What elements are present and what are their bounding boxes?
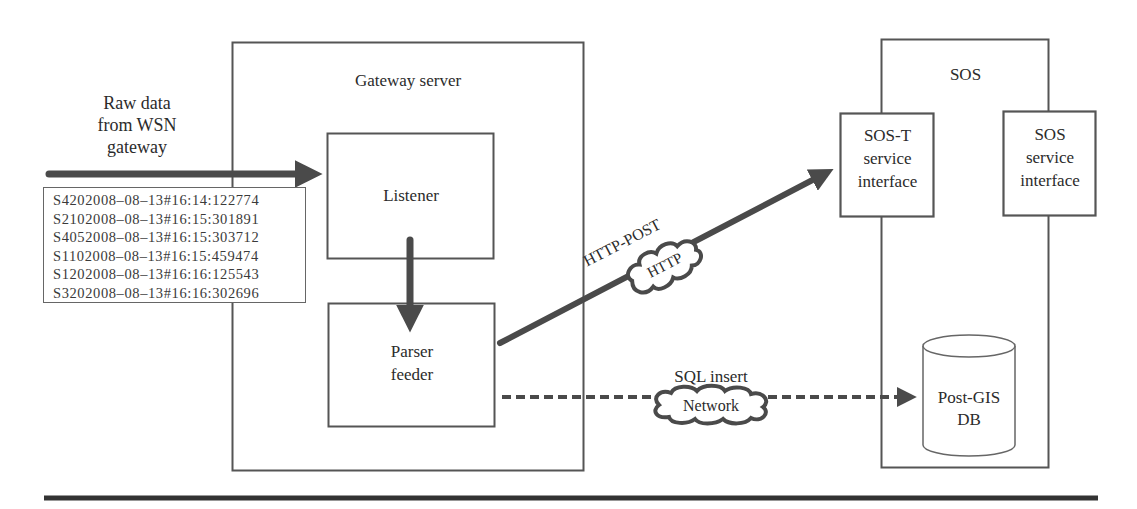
sos-title: SOS xyxy=(882,64,1049,85)
network-cloud-label: Network xyxy=(661,395,761,416)
raw-data-label-line-1: Raw data xyxy=(103,92,170,114)
sos-t-interface-label-line-2: service xyxy=(863,147,911,170)
raw-records-box: S4202008–08–13#16:14:122774 S2102008–08–… xyxy=(43,187,306,303)
sos-t-interface-label: SOS-T service interface xyxy=(841,124,934,193)
sos-t-interface-label-line-3: interface xyxy=(858,170,917,193)
raw-record-row: S4052008–08–13#16:15:303712 xyxy=(53,228,305,247)
sos-interface-label-line-2: service xyxy=(1026,146,1074,169)
raw-data-label: Raw data from WSN gateway xyxy=(62,92,212,158)
database-label-line-1: Post-GIS xyxy=(938,387,1000,409)
parser-feeder-label: Parser feeder xyxy=(329,340,495,386)
parser-feeder-label-line-1: Parser xyxy=(391,340,433,363)
parser-feeder-label-line-2: feeder xyxy=(391,363,433,386)
raw-data-label-line-2: from WSN xyxy=(97,114,176,136)
database-label: Post-GIS DB xyxy=(923,387,1015,431)
sos-t-interface-label-line-1: SOS-T xyxy=(864,124,911,147)
listener-label: Listener xyxy=(328,185,494,206)
sos-interface-label-line-3: interface xyxy=(1020,169,1079,192)
raw-record-row: S3202008–08–13#16:16:302696 xyxy=(53,284,305,303)
raw-record-row: S2102008–08–13#16:15:301891 xyxy=(53,210,305,229)
sos-interface-label-line-1: SOS xyxy=(1034,123,1065,146)
gateway-server-title: Gateway server xyxy=(232,70,584,91)
raw-data-label-line-3: gateway xyxy=(107,136,167,158)
raw-record-row: S4202008–08–13#16:14:122774 xyxy=(53,191,305,210)
database-label-line-2: DB xyxy=(957,409,981,431)
raw-record-row: S1202008–08–13#16:16:125543 xyxy=(53,265,305,284)
sos-interface-label: SOS service interface xyxy=(1004,123,1096,192)
raw-record-row: S1102008–08–13#16:15:459474 xyxy=(53,247,305,266)
sql-insert-label: SQL insert xyxy=(651,366,771,387)
